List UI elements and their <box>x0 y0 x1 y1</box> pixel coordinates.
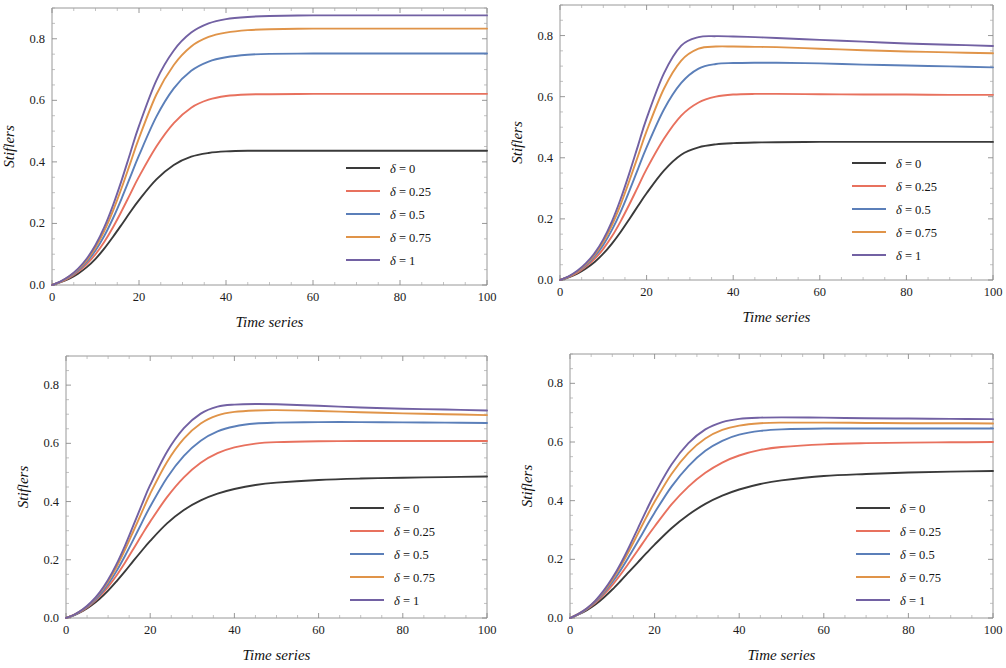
x-tick-label: 40 <box>727 285 740 299</box>
x-tick-label: 80 <box>394 290 407 304</box>
x-tick-label: 60 <box>312 623 325 637</box>
legend-label-2: δ = 0.5 <box>896 203 931 217</box>
x-tick-label: 100 <box>984 623 1003 637</box>
y-tick-label: 0.4 <box>537 151 553 165</box>
y-tick-label: 0.4 <box>43 495 59 509</box>
x-axis-title: Time series <box>748 647 816 663</box>
legend-label-0: δ = 0 <box>394 502 419 516</box>
x-tick-label: 20 <box>648 623 661 637</box>
data-curves <box>66 404 487 618</box>
legend-label-1: δ = 0.25 <box>900 525 941 539</box>
legend-label-1: δ = 0.25 <box>390 185 431 199</box>
legend-label-3: δ = 0.75 <box>896 226 937 240</box>
y-tick-label: 0.0 <box>43 611 59 625</box>
y-tick-label: 0.0 <box>29 278 45 292</box>
legend-label-0: δ = 0 <box>390 162 415 176</box>
y-tick-label: 0.8 <box>547 376 563 390</box>
y-axis-title: Stiflers <box>519 465 535 508</box>
y-tick-label: 0.2 <box>29 216 45 230</box>
chart-panel-bottom-right: 0204060801000.00.20.40.60.8Time seriesSt… <box>503 334 1006 668</box>
curve-series-2 <box>52 54 487 285</box>
legend-label-1: δ = 0.25 <box>394 525 435 539</box>
data-curves <box>560 36 993 280</box>
x-tick-label: 60 <box>814 285 827 299</box>
axis-ticks: 0204060801000.00.20.40.60.8 <box>29 8 496 304</box>
y-axis-title: Stiflers <box>509 121 525 164</box>
x-tick-label: 0 <box>557 285 563 299</box>
legend-label-2: δ = 0.5 <box>390 208 425 222</box>
x-tick-label: 20 <box>133 290 146 304</box>
chart-panel-top-right: 0204060801000.00.20.40.60.8Time seriesSt… <box>503 0 1006 334</box>
y-axis-title: Stiflers <box>1 125 17 168</box>
x-tick-label: 0 <box>567 623 573 637</box>
y-tick-label: 0.8 <box>29 32 45 46</box>
legend-label-4: δ = 1 <box>394 594 419 608</box>
y-axis-title: Stiflers <box>15 466 31 509</box>
legend-label-3: δ = 0.75 <box>394 571 435 585</box>
chart-svg: 0204060801000.00.20.40.60.8Time seriesSt… <box>503 0 1006 334</box>
chart-svg: 0204060801000.00.20.40.60.8Time seriesSt… <box>503 334 1006 668</box>
y-tick-label: 0.2 <box>43 553 59 567</box>
y-tick-label: 0.2 <box>547 552 563 566</box>
y-tick-label: 0.6 <box>537 90 553 104</box>
legend: δ = 0δ = 0.25δ = 0.5δ = 0.75δ = 1 <box>346 162 431 268</box>
axis-ticks: 0204060801000.00.20.40.60.8 <box>43 356 496 637</box>
x-tick-label: 60 <box>307 290 320 304</box>
curve-series-0 <box>570 471 993 618</box>
y-tick-label: 0.8 <box>537 29 553 43</box>
legend-label-4: δ = 1 <box>896 249 921 263</box>
x-tick-label: 40 <box>220 290 233 304</box>
legend-label-3: δ = 0.75 <box>900 571 941 585</box>
x-tick-label: 0 <box>49 290 55 304</box>
legend: δ = 0δ = 0.25δ = 0.5δ = 0.75δ = 1 <box>350 502 435 608</box>
data-curves <box>52 15 487 285</box>
x-tick-label: 20 <box>640 285 653 299</box>
legend-label-0: δ = 0 <box>900 502 925 516</box>
x-tick-label: 20 <box>144 623 157 637</box>
chart-panel-top-left: 0204060801000.00.20.40.60.8Time seriesSt… <box>0 0 503 334</box>
chart-svg: 0204060801000.00.20.40.60.8Time seriesSt… <box>0 0 503 334</box>
curve-series-2 <box>66 422 487 618</box>
curve-series-3 <box>560 46 993 280</box>
x-axis-title: Time series <box>243 647 311 663</box>
y-tick-label: 0.6 <box>29 93 45 107</box>
x-tick-label: 0 <box>63 623 69 637</box>
y-tick-label: 0.8 <box>43 378 59 392</box>
y-tick-label: 0.0 <box>547 611 563 625</box>
legend-label-0: δ = 0 <box>896 157 921 171</box>
y-tick-label: 0.6 <box>547 435 563 449</box>
curve-series-4 <box>66 404 487 618</box>
legend: δ = 0δ = 0.25δ = 0.5δ = 0.75δ = 1 <box>852 157 937 263</box>
legend: δ = 0δ = 0.25δ = 0.5δ = 0.75δ = 1 <box>856 502 941 608</box>
legend-label-2: δ = 0.5 <box>900 548 935 562</box>
chart-svg: 0204060801000.00.20.40.60.8Time seriesSt… <box>0 334 503 668</box>
y-tick-label: 0.4 <box>547 494 563 508</box>
legend-label-3: δ = 0.75 <box>390 231 431 245</box>
y-tick-label: 0.2 <box>537 212 553 226</box>
legend-label-4: δ = 1 <box>900 594 925 608</box>
curve-series-3 <box>570 423 993 618</box>
curve-series-3 <box>52 29 487 285</box>
y-tick-label: 0.4 <box>29 155 45 169</box>
x-tick-label: 100 <box>478 623 497 637</box>
y-tick-label: 0.6 <box>43 436 59 450</box>
x-tick-label: 80 <box>397 623 410 637</box>
four-panel-figure: 0204060801000.00.20.40.60.8Time seriesSt… <box>0 0 1006 668</box>
curve-series-4 <box>560 36 993 280</box>
x-tick-label: 100 <box>984 285 1003 299</box>
x-tick-label: 100 <box>478 290 497 304</box>
x-tick-label: 80 <box>902 623 915 637</box>
legend-label-4: δ = 1 <box>390 254 415 268</box>
data-curves <box>570 417 993 618</box>
curve-series-2 <box>570 428 993 618</box>
x-tick-label: 40 <box>228 623 241 637</box>
x-tick-label: 40 <box>733 623 746 637</box>
x-axis-title: Time series <box>743 309 811 325</box>
x-axis-title: Time series <box>236 314 304 330</box>
axis-ticks: 0204060801000.00.20.40.60.8 <box>537 5 1002 299</box>
chart-panel-bottom-left: 0204060801000.00.20.40.60.8Time seriesSt… <box>0 334 503 668</box>
axis-ticks: 0204060801000.00.20.40.60.8 <box>547 354 1002 637</box>
legend-label-2: δ = 0.5 <box>394 548 429 562</box>
legend-label-1: δ = 0.25 <box>896 180 937 194</box>
x-tick-label: 60 <box>818 623 831 637</box>
